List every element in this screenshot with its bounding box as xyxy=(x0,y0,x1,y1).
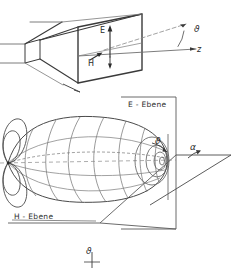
z-axis-label: z xyxy=(197,45,201,54)
e-plane-label: E - Ebene xyxy=(128,100,166,109)
h-vector-label: H xyxy=(88,59,94,68)
e-vector-label: E xyxy=(100,26,105,35)
alpha-angle-label: α xyxy=(190,142,196,152)
phi-angle-label-middle: ϑ xyxy=(155,136,161,146)
phi-angle-label-top: ϑ xyxy=(194,24,200,34)
figure-background xyxy=(0,0,233,272)
pattern-origin-point xyxy=(7,162,10,165)
phi-axis-label-bottom: ϑ xyxy=(86,246,92,256)
antenna-radiation-figure xyxy=(0,0,233,272)
h-plane-label: H - Ebene xyxy=(14,212,53,221)
